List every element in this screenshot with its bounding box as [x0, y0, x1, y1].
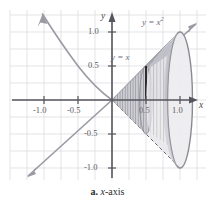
y-tick-label--0.5: -0.5: [84, 129, 97, 138]
y-tick-label-1.0: 1.0: [88, 27, 99, 36]
line-arrow-lower-icon: [27, 167, 40, 178]
x-axis-label: x: [199, 101, 203, 111]
y-tick-label--1.0: -1.0: [84, 163, 97, 172]
figure-caption: a. x-axis: [0, 186, 215, 197]
x-tick-label-1.0: 1.0: [172, 106, 183, 115]
caption-rest: -axis: [105, 186, 124, 197]
y-axis-arrow-icon: [109, 12, 116, 22]
y-axis-label: y: [101, 12, 105, 22]
x-tick-label--0.5: -0.5: [67, 106, 80, 115]
x-tick-label--1.0: -1.0: [33, 106, 46, 115]
line-equation-label: y = x: [111, 53, 130, 62]
x-tick-label-0.5: 0.5: [139, 106, 150, 115]
plot-canvas: [0, 0, 215, 208]
y-tick-label-0.5: 0.5: [88, 61, 99, 70]
figure-solid-of-revolution: y x -1.0 -0.5 0.5 1.0 1.0 0.5 -0.5 -1.0 …: [0, 0, 215, 208]
parabola-equation-label: y = x2: [142, 16, 164, 27]
caption-letter: a.: [91, 186, 99, 197]
